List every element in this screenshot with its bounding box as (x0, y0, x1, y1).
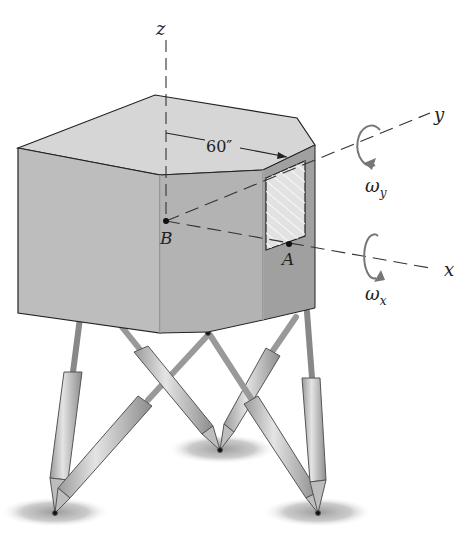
omega-y-arrow (357, 126, 380, 170)
foot-right (316, 511, 321, 516)
omega-x-symbol: ω (365, 283, 380, 304)
foot-left (53, 511, 58, 516)
point-A-label: A (280, 249, 294, 269)
foot-center (218, 448, 223, 453)
z-axis-label: z (155, 18, 166, 39)
omega-y-subscript: y (379, 186, 387, 200)
struts (50, 312, 326, 516)
strut-center-right (220, 317, 296, 450)
flight-simulator-diagram: z y x B A 60″ ωy ωx (0, 0, 472, 536)
dimension-label: 60″ (206, 137, 232, 156)
point-A (286, 241, 292, 247)
y-axis-label: y (433, 104, 445, 125)
point-B (163, 218, 169, 224)
cabin-front-face (160, 170, 263, 333)
omega-x-subscript: x (380, 294, 387, 308)
point-B-label: B (159, 228, 173, 248)
omega-x-label: ωx (365, 283, 387, 308)
x-axis-label: x (444, 259, 454, 280)
cabin-left-face (18, 148, 160, 333)
omega-y-label: ωy (365, 175, 387, 200)
omega-y-symbol: ω (365, 175, 380, 196)
strut-left-diagonal (55, 335, 208, 513)
strut-center-left (122, 327, 220, 450)
